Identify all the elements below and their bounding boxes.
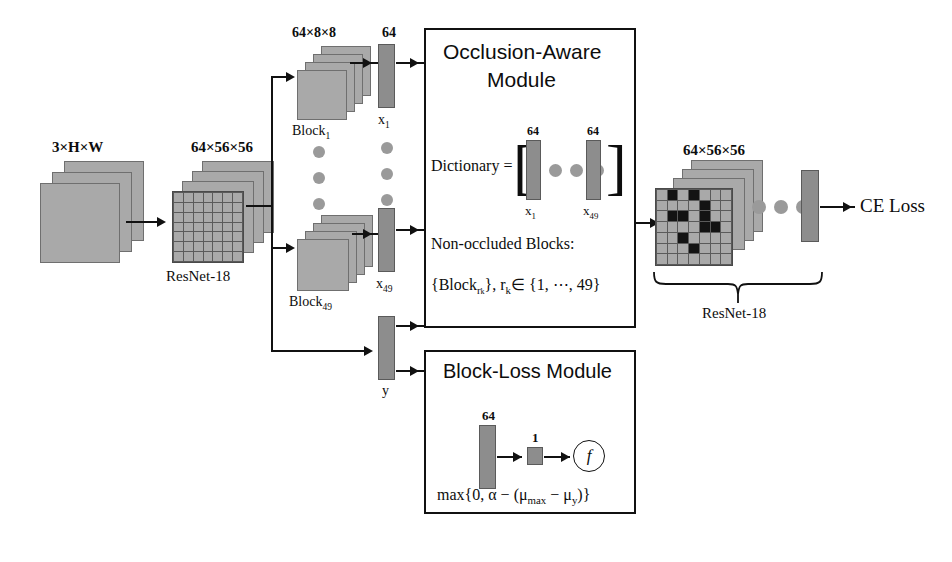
feature-cell (184, 252, 193, 261)
feature-cell (233, 232, 242, 241)
feature-cell (174, 242, 183, 251)
feature-cell (700, 211, 710, 221)
arrow-block1-to-x1-head (363, 58, 372, 68)
branch-to-block1-head (286, 72, 295, 82)
feature-cell (678, 233, 688, 243)
feature-cell (657, 190, 667, 200)
feature-cell (213, 232, 222, 241)
feature-cell (194, 213, 203, 222)
feature-cell (194, 242, 203, 251)
feature-cell (711, 201, 721, 211)
feature-cell (689, 222, 699, 232)
feature-cell (711, 211, 721, 221)
feature-cell (213, 193, 222, 202)
feature-cell (678, 244, 688, 254)
branch-bus-vertical (271, 76, 273, 351)
feature-cell (174, 213, 183, 222)
feature-cell (668, 190, 678, 200)
feature-cell (233, 203, 242, 212)
feature-cell (668, 222, 678, 232)
formula-suffix: )} (577, 486, 590, 503)
input-feature-grid (172, 191, 244, 263)
feature-cell (194, 252, 203, 261)
feature-cell (184, 242, 193, 251)
x49-vector (378, 208, 395, 272)
block-shape-label: 64×8×8 (292, 26, 336, 40)
feature-cell (678, 190, 688, 200)
ellipsis-dot (774, 200, 788, 214)
function-glyph: f (574, 441, 604, 470)
feature-cell (700, 244, 710, 254)
function-node-circle: f (573, 440, 605, 472)
block1-label: Block1 (292, 124, 330, 141)
feature-cell (711, 254, 721, 264)
feature-cell (700, 254, 710, 264)
ellipsis-dot (570, 164, 583, 177)
block49-label: Block49 (289, 295, 332, 312)
figure-canvas: 3×H×W 64×56×56 ResNet-18 64×8×8 Block1 B… (0, 0, 952, 562)
feature-cell (721, 211, 731, 221)
dict-first-vector-label: x1 (525, 204, 536, 220)
feature-cell (174, 232, 183, 241)
ellipsis-dot (381, 142, 393, 154)
feature-cell (721, 244, 731, 254)
ellipsis-dot (381, 194, 393, 206)
feature-cell (223, 232, 232, 241)
nonoccluded-set-head: {Block (431, 276, 477, 293)
arrow-output-to-celoss-head (843, 202, 852, 212)
input-feature-shape-label: 64×56×56 (191, 140, 253, 155)
ellipsis-dot (381, 168, 393, 180)
dict-first-vector-sub: 1 (532, 211, 536, 221)
x49-label: x49 (376, 277, 393, 294)
blockloss-vector (479, 425, 496, 489)
feature-cell (700, 233, 710, 243)
feature-cell (213, 213, 222, 222)
branch-to-block49-head (286, 243, 295, 253)
output-backbone-label: ResNet-18 (702, 306, 766, 321)
input-shape-label: 3×H×W (52, 140, 103, 155)
feature-cell (721, 201, 731, 211)
arrow-block49-to-x49-head (363, 229, 372, 239)
feature-cell (657, 244, 667, 254)
nonoccluded-heading: Non-occluded Blocks: (431, 236, 575, 252)
arrow-x1-to-occlusion-head (410, 58, 419, 68)
feature-cell (668, 211, 678, 221)
input-backbone-label: ResNet-18 (166, 269, 230, 284)
feature-cell (668, 233, 678, 243)
feature-cell (657, 233, 667, 243)
feature-cell (721, 222, 731, 232)
x1-label: x1 (378, 113, 390, 130)
nonoccluded-set-expression: {Blockrk}, rk∈ {1, ⋯, 49} (431, 277, 600, 296)
x1-vector (378, 44, 395, 108)
feature-cell (700, 190, 710, 200)
feature-cell (184, 193, 193, 202)
block-loss-module-title: Block-Loss Module (443, 360, 612, 383)
dict-first-dim-label: 64 (527, 125, 539, 137)
blockloss-scalar-node (527, 447, 543, 465)
arrow-scalar-to-function-head (561, 452, 570, 462)
feature-cell (700, 222, 710, 232)
occlusion-module-title-line1: Occlusion-Aware (443, 40, 601, 64)
ellipsis-dot (313, 198, 325, 210)
feature-cell (184, 232, 193, 241)
feature-cell (233, 193, 242, 202)
arrow-y-to-occlusion-head (410, 321, 419, 331)
block1-label-sub: 1 (325, 131, 330, 141)
feature-cell (184, 203, 193, 212)
ellipsis-dot (752, 200, 766, 214)
blockloss-scalar-dim-label: 1 (532, 431, 539, 444)
feature-cell (213, 252, 222, 261)
arrow-y-to-blockloss-head (410, 366, 419, 376)
ellipsis-dot (313, 146, 325, 158)
arrow-input-to-backbone-line (126, 221, 158, 223)
feature-cell (678, 222, 688, 232)
feature-cell (204, 203, 213, 212)
feature-cell (689, 254, 699, 264)
feature-cell (204, 252, 213, 261)
ce-loss-label: CE Loss (860, 196, 925, 215)
ellipsis-dot (549, 164, 562, 177)
feature-cell (184, 213, 193, 222)
block-loss-formula: max{0, α − (μmax − μy)} (437, 487, 590, 506)
feature-cell (711, 244, 721, 254)
feature-cell (174, 223, 183, 232)
